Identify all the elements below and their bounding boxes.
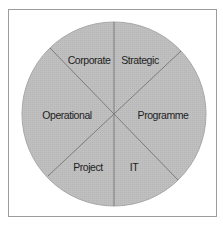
segment-label-operational: Operational	[42, 109, 91, 121]
segmented-circle-diagram: Corporate Strategic Programme IT Project…	[0, 0, 223, 225]
segment-label-project: Project	[73, 161, 103, 173]
segment-label-strategic: Strategic	[121, 54, 159, 66]
segment-label-it: IT	[130, 161, 139, 173]
segment-label-programme: Programme	[138, 109, 189, 121]
segment-label-corporate: Corporate	[68, 54, 111, 66]
